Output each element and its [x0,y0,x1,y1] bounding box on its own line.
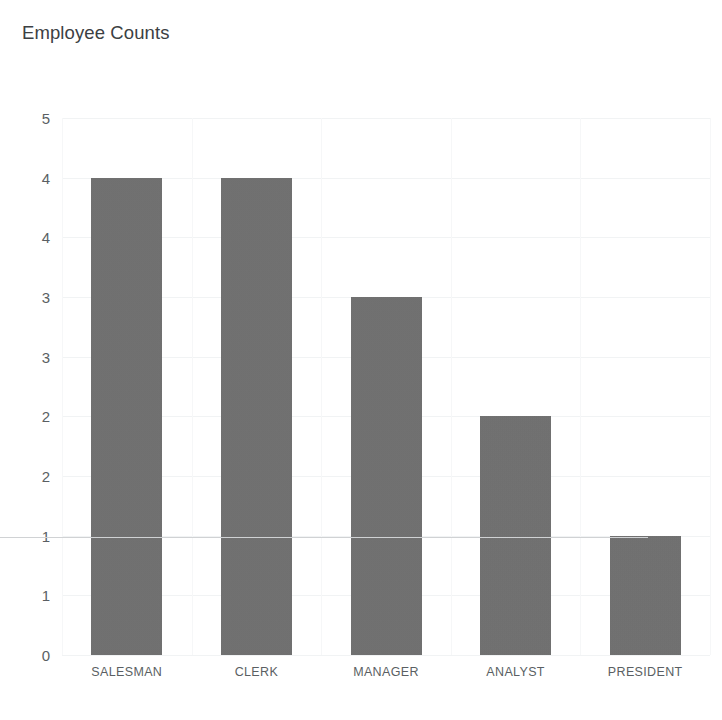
y-tick-label: 4 [42,169,50,186]
y-axis: 5443322110 [0,118,50,655]
bar-manager[interactable] [351,297,422,655]
x-tick-label-manager: MANAGER [353,665,419,679]
plot-area [62,118,710,655]
y-tick-label: 5 [42,110,50,127]
x-tick-label-analyst: ANALYST [486,665,545,679]
gridline-horizontal [62,655,710,656]
bar-salesman[interactable] [91,178,162,655]
y-tick-label: 1 [42,527,50,544]
y-tick-label: 2 [42,468,50,485]
gridline-vertical [580,118,581,655]
bar-president[interactable] [610,536,681,655]
gridline-vertical [451,118,452,655]
y-tick-label: 3 [42,289,50,306]
y-tick-label: 0 [42,647,50,664]
bar-clerk[interactable] [221,178,292,655]
y-tick-label: 4 [42,229,50,246]
gridline-vertical [321,118,322,655]
x-axis-line [0,537,648,538]
x-tick-label-clerk: CLERK [235,665,278,679]
chart-title: Employee Counts [22,22,170,44]
gridline-vertical [192,118,193,655]
y-tick-label: 1 [42,587,50,604]
gridline-vertical [62,118,63,655]
x-tick-label-president: PRESIDENT [608,665,683,679]
chart-card: Employee Counts 5443322110 SALESMANCLERK… [0,0,722,720]
y-tick-label: 3 [42,348,50,365]
x-tick-label-salesman: SALESMAN [91,665,162,679]
bar-analyst[interactable] [480,416,551,655]
gridline-horizontal [62,118,710,119]
y-tick-label: 2 [42,408,50,425]
gridline-vertical [710,118,711,655]
